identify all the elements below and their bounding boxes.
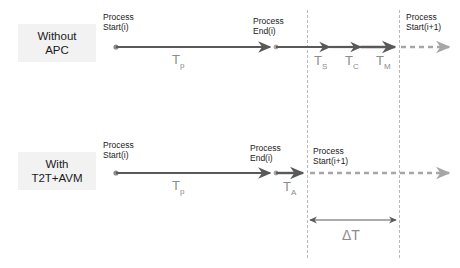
row-label-line2: APC	[45, 43, 69, 57]
node-label-line2: End(i)	[253, 26, 284, 36]
node-label-line2: End(i)	[250, 153, 281, 163]
duration-label-tp-top: Tp	[172, 53, 184, 70]
process-end-i-top-marker	[274, 45, 279, 50]
duration-base: T	[172, 178, 180, 193]
duration-sub: p	[180, 61, 184, 70]
duration-label-tm: TM	[376, 54, 391, 71]
duration-base: T	[283, 179, 291, 194]
row-label-line1: With	[46, 157, 69, 171]
duration-label-tp-bottom: Tp	[172, 179, 184, 196]
duration-base: T	[314, 53, 322, 68]
duration-base: T	[376, 53, 384, 68]
node-label-start-i1-top: Process Start(i+1)	[406, 12, 441, 32]
duration-sub: A	[291, 188, 296, 197]
guide-line-left	[307, 10, 308, 258]
duration-sub: S	[322, 62, 327, 71]
node-label-end-i-bottom: Process End(i)	[250, 143, 281, 163]
row-label-line1: Without	[38, 29, 77, 43]
duration-label-tc: TC	[345, 54, 359, 71]
node-label-start-i-top: Process Start(i)	[103, 12, 134, 32]
node-label-start-i-bottom: Process Start(i)	[103, 140, 134, 160]
node-label-line1: Process	[103, 12, 134, 22]
node-label-line2: Start(i)	[103, 22, 134, 32]
node-label-line1: Process	[406, 12, 441, 22]
node-label-end-i-top: Process End(i)	[253, 16, 284, 36]
duration-sub: C	[353, 62, 359, 71]
node-label-line1: Process	[313, 146, 348, 156]
row-label-line2: T2T+AVM	[31, 171, 82, 185]
node-label-start-i1-bottom: Process Start(i+1)	[313, 146, 348, 166]
node-label-line1: Process	[103, 140, 134, 150]
node-label-line2: Start(i+1)	[313, 156, 348, 166]
process-start-i-top-marker	[113, 44, 118, 49]
duration-sub: p	[180, 187, 184, 196]
node-label-line2: Start(i+1)	[406, 22, 441, 32]
node-label-line1: Process	[253, 16, 284, 26]
duration-base: T	[172, 52, 180, 67]
delta-t-label: ΔT	[342, 228, 360, 242]
timeline-diagram: Without APC Process Start(i) Process End…	[0, 0, 460, 268]
duration-label-ts: TS	[314, 54, 327, 71]
duration-sub: M	[384, 62, 391, 71]
duration-label-ta: TA	[283, 180, 296, 197]
node-label-line2: Start(i)	[103, 150, 134, 160]
process-end-i-bottom-marker	[274, 171, 279, 176]
duration-base: T	[345, 53, 353, 68]
row-label-with-t2t-avm: With T2T+AVM	[18, 152, 96, 190]
process-start-i-bottom-marker	[113, 170, 118, 175]
row-label-without-apc: Without APC	[18, 24, 96, 62]
node-label-line1: Process	[250, 143, 281, 153]
guide-line-right	[399, 10, 400, 258]
